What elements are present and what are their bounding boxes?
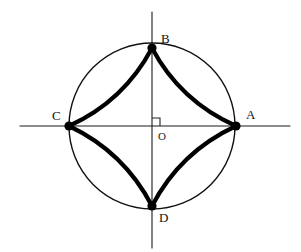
diagram-canvas: A B C D O [0,0,301,252]
arc-c-to-b [69,48,152,126]
vertex-label-b: B [161,31,170,46]
labels-group: A B C D O [52,31,256,225]
right-angle-mark [152,118,160,126]
vertex-dot-c [64,121,73,130]
origin-label-o: O [158,130,166,142]
arc-d-to-c [69,126,152,206]
vertex-label-d: D [159,210,168,225]
geometric-figure: A B C D O [0,0,301,252]
vertex-dot-d [147,201,156,210]
vertex-label-c: C [52,108,61,123]
vertex-dot-b [147,43,156,52]
arc-b-to-a [152,48,236,126]
vertex-label-a: A [246,107,256,122]
vertex-dot-a [231,121,240,130]
